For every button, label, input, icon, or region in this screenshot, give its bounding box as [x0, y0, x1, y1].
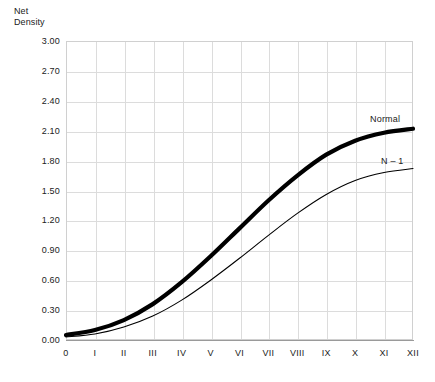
curve-label-normal: Normal — [370, 114, 400, 124]
curve-layer — [0, 0, 435, 382]
curve-label-n-minus-1: N – 1 — [381, 156, 404, 166]
net-density-chart: Net Density 3.002.702.402.101.801.501.20… — [0, 0, 435, 382]
curve-n-minus-1 — [66, 169, 413, 337]
curve-normal — [66, 129, 413, 335]
